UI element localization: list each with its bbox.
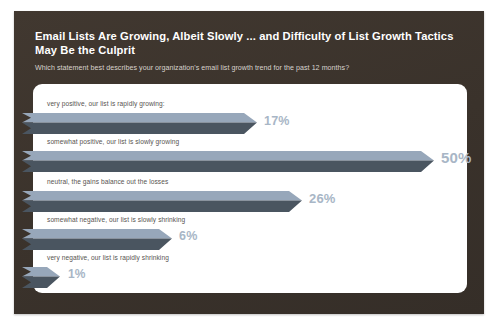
headline-block: Email Lists Are Growing, Albeit Slowly .…	[35, 30, 467, 73]
chart-card	[33, 84, 467, 293]
chart-subtitle: Which statement best describes your orga…	[35, 63, 467, 73]
page-title: Email Lists Are Growing, Albeit Slowly .…	[35, 30, 467, 57]
slide-frame: Email Lists Are Growing, Albeit Slowly .…	[14, 11, 484, 314]
